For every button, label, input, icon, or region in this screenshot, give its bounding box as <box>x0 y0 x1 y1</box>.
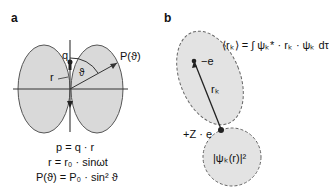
charge-dot <box>68 60 73 65</box>
panel-a-label: a <box>11 12 18 24</box>
vector-rk-label: rₖ <box>211 84 220 95</box>
density-label: |ψₖ(r)|² <box>213 153 246 164</box>
charge-label: q <box>62 50 68 61</box>
equation-power: P(ϑ) = P₀ · sin² ϑ <box>36 172 118 183</box>
equation-position: r = r₀ · sinωt <box>48 157 108 168</box>
vector-r-label: r <box>50 72 54 83</box>
power-label: P(ϑ) <box>120 51 141 62</box>
expectation-equation: ⟨rₖ⟩ = ∫ ψₖ* · rₖ · ψₖ dτ <box>222 40 329 51</box>
equation-dipole: p = q · r <box>56 142 94 153</box>
angle-label: ϑ <box>79 68 84 78</box>
electron-label: −e <box>201 56 214 67</box>
panel-b-label: b <box>164 12 171 24</box>
nucleus-dot <box>218 127 224 133</box>
electron-dot <box>192 59 197 64</box>
nucleus-label: +Z · e <box>183 129 212 140</box>
